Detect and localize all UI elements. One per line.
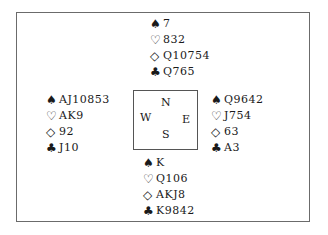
south-hand: ♠K ♡Q106 ◇AKJ8 ♣K9842 — [143, 155, 195, 219]
west-hearts: ♡AK9 — [46, 108, 110, 124]
south-diamonds: ◇AKJ8 — [143, 187, 195, 203]
club-icon: ♣ — [211, 140, 224, 156]
spade-icon: ♠ — [46, 92, 59, 108]
heart-icon: ♡ — [46, 108, 59, 124]
diamond-icon: ◇ — [46, 124, 59, 140]
club-icon: ♣ — [46, 140, 59, 156]
heart-icon: ♡ — [143, 171, 156, 187]
south-hearts: ♡Q106 — [143, 171, 195, 187]
spade-icon: ♠ — [211, 92, 224, 108]
east-hearts: ♡J754 — [211, 108, 264, 124]
heart-icon: ♡ — [211, 108, 224, 124]
north-clubs: ♣Q765 — [150, 64, 210, 80]
compass-west: W — [140, 111, 151, 124]
west-spades: ♠AJ10853 — [46, 92, 110, 108]
spade-icon: ♠ — [143, 155, 156, 171]
compass-east: E — [182, 113, 190, 126]
north-diamonds: ◇Q10754 — [150, 48, 210, 64]
club-icon: ♣ — [143, 203, 156, 219]
north-spades: ♠7 — [150, 16, 210, 32]
north-hearts: ♡832 — [150, 32, 210, 48]
compass-south: S — [162, 128, 170, 141]
east-clubs: ♣A3 — [211, 140, 264, 156]
diamond-icon: ◇ — [150, 48, 163, 64]
south-clubs: ♣K9842 — [143, 203, 195, 219]
east-spades: ♠Q9642 — [211, 92, 264, 108]
compass-box: N W E S — [133, 90, 198, 150]
diamond-icon: ◇ — [143, 187, 156, 203]
heart-icon: ♡ — [150, 32, 163, 48]
west-diamonds: ◇92 — [46, 124, 110, 140]
club-icon: ♣ — [150, 64, 163, 80]
west-hand: ♠AJ10853 ♡AK9 ◇92 ♣J10 — [46, 92, 110, 156]
east-diamonds: ◇63 — [211, 124, 264, 140]
spade-icon: ♠ — [150, 16, 163, 32]
north-hand: ♠7 ♡832 ◇Q10754 ♣Q765 — [150, 16, 210, 80]
diamond-icon: ◇ — [211, 124, 224, 140]
east-hand: ♠Q9642 ♡J754 ◇63 ♣A3 — [211, 92, 264, 156]
compass-north: N — [161, 96, 171, 109]
west-clubs: ♣J10 — [46, 140, 110, 156]
south-spades: ♠K — [143, 155, 195, 171]
